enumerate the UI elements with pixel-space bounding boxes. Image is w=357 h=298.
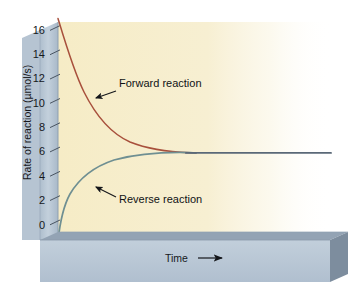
- reaction-rate-equilibrium-figure: 16 14 12 10 8 6 4 2 0 Rate of reaction (…: [0, 0, 357, 298]
- y-axis-title: Rate of reaction (µmol/s): [21, 65, 33, 180]
- y-tick-label-16: 16: [33, 24, 45, 36]
- chart-canvas: 16 14 12 10 8 6 4 2 0 Rate of reaction (…: [0, 0, 357, 298]
- forward-reaction-label: Forward reaction: [119, 77, 202, 89]
- x-axis-title: Time: [165, 252, 188, 264]
- y-tick-label-10: 10: [33, 97, 45, 109]
- reverse-reaction-label: Reverse reaction: [119, 193, 202, 205]
- y-tick-label-14: 14: [33, 48, 45, 60]
- y-tick-label-4: 4: [39, 170, 45, 182]
- plot-area-background: [58, 22, 330, 240]
- x-axis-base-slab: [40, 232, 348, 282]
- y-tick-label-12: 12: [33, 72, 45, 84]
- y-tick-label-0: 0: [39, 219, 45, 231]
- y-tick-label-6: 6: [39, 145, 45, 157]
- y-tick-label-2: 2: [39, 194, 45, 206]
- y-tick-label-8: 8: [39, 121, 45, 133]
